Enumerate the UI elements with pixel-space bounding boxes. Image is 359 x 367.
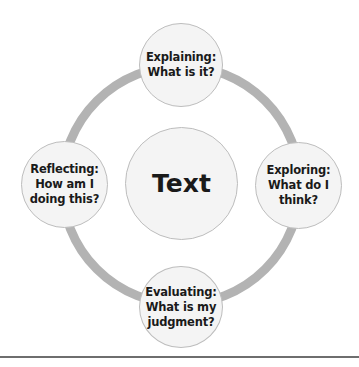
bottom-rule (0, 356, 359, 358)
node-evaluating: Evaluating: What is my judgment? (139, 266, 223, 348)
center-label: Text (152, 170, 211, 198)
node-explaining-label: Explaining: What is it? (146, 50, 216, 80)
node-reflecting-label: Reflecting: How am I doing this? (30, 162, 99, 207)
node-exploring-label: Exploring: What do I think? (267, 163, 331, 208)
node-evaluating-label: Evaluating: What is my judgment? (145, 285, 216, 330)
node-exploring: Exploring: What do I think? (255, 142, 342, 229)
center-node: Text (125, 127, 238, 240)
node-explaining: Explaining: What is it? (139, 23, 223, 107)
node-reflecting: Reflecting: How am I doing this? (21, 141, 108, 228)
